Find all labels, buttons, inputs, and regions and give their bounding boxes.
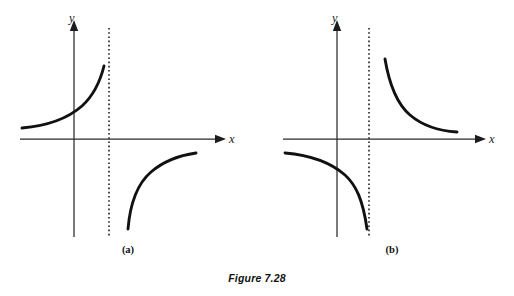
panel-a-x-axis-label: x xyxy=(228,132,235,146)
panel-a: x y (a) xyxy=(20,11,235,256)
panel-b-y-axis-label: y xyxy=(330,11,338,25)
panel-b-x-axis-label: x xyxy=(488,132,495,146)
panel-b: x y (b) xyxy=(283,11,495,256)
panel-a-y-axis-label: y xyxy=(67,11,75,25)
panel-a-upper-left-branch xyxy=(22,66,104,128)
figure-container: x y (a) x y (b) Figure 7.28 xyxy=(0,0,514,296)
panel-b-label: (b) xyxy=(386,244,399,256)
panel-b-x-axis-arrow xyxy=(475,135,486,143)
panel-b-upper-right-branch xyxy=(385,59,457,132)
panel-a-x-axis-arrow xyxy=(215,135,226,143)
panel-a-lower-right-branch xyxy=(128,153,196,229)
panel-a-label: (a) xyxy=(122,244,135,256)
figure-caption: Figure 7.28 xyxy=(228,272,286,284)
figure-7-28-canvas: x y (a) x y (b) Figure 7.28 xyxy=(0,0,514,296)
panel-b-lower-left-branch xyxy=(285,153,367,229)
